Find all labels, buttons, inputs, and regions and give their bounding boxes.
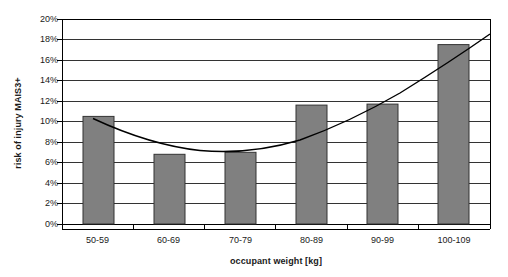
bar-60-69[interactable] [154, 154, 185, 224]
y-axis-ticks [57, 19, 62, 224]
x-tick-label-80-89: 80-89 [276, 235, 347, 245]
x-axis-title: occupant weight [kg] [62, 256, 490, 266]
bar-50-59[interactable] [83, 116, 114, 224]
bar-90-99[interactable] [367, 104, 398, 224]
x-axis-ticks [62, 224, 490, 229]
x-tick-label-100-109: 100-109 [418, 235, 490, 245]
gridlines [62, 19, 490, 204]
x-tick-label-90-99: 90-99 [347, 235, 418, 245]
bar-70-79[interactable] [225, 152, 256, 224]
x-tick-label-60-69: 60-69 [133, 235, 204, 245]
bar-80-89[interactable] [296, 105, 327, 224]
trend-curve [93, 34, 490, 152]
chart-container: risk of injury MAIS3+ 20% 18% 16% 14% 12… [0, 0, 508, 277]
x-tick-label-50-59: 50-59 [62, 235, 133, 245]
bar-100-109[interactable] [438, 45, 469, 224]
bars [83, 45, 469, 224]
x-tick-label-70-79: 70-79 [205, 235, 276, 245]
